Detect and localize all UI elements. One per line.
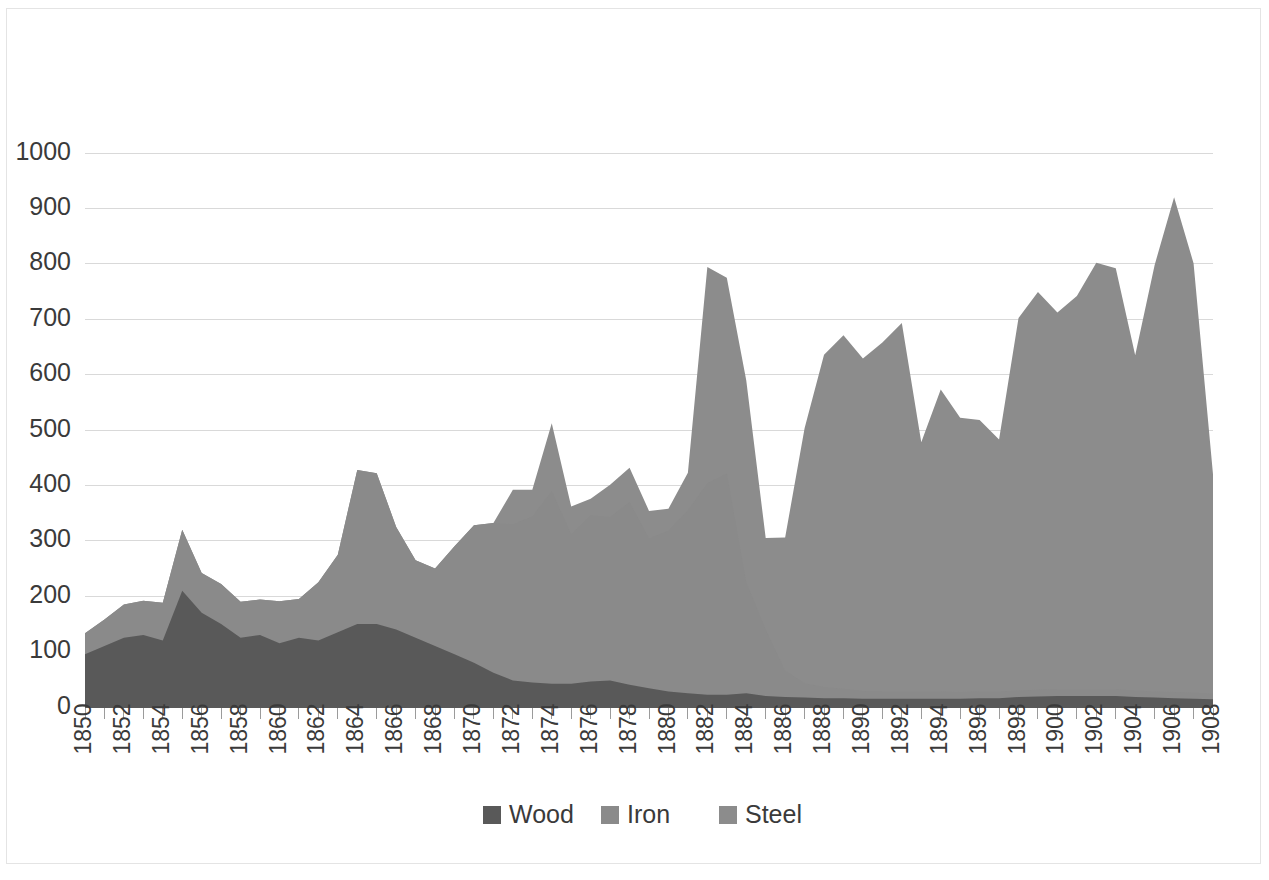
x-tick-label: 1884 [731,703,757,754]
x-tick-label: 1862 [303,703,329,754]
x-tick-label: 1896 [965,703,991,754]
x-tick-label: 1898 [1004,703,1030,754]
legend-label-wood[interactable]: Wood [509,800,574,828]
x-tick-label: 1906 [1159,703,1185,754]
x-tick-label: 1890 [848,703,874,754]
y-tick-label: 200 [29,580,71,608]
plot-area: 01002003004005006007008009001000 1850185… [0,0,1269,880]
y-tick-label: 700 [29,303,71,331]
y-tick-label: 300 [29,524,71,552]
x-tick-label: 1868 [420,703,446,754]
x-tick-label: 1904 [1120,703,1146,754]
x-tick-label: 1866 [381,703,407,754]
y-tick-label: 0 [57,691,71,719]
series-areas-group [85,197,1213,707]
x-tick-label: 1864 [342,703,368,754]
x-tick-label: 1850 [70,703,96,754]
x-tick-label: 1908 [1198,703,1224,754]
x-tick-label: 1900 [1042,703,1068,754]
x-tick-label: 1902 [1081,703,1107,754]
x-tick-label: 1894 [926,703,952,754]
x-tick-label: 1874 [537,703,563,754]
legend-swatch-iron[interactable] [601,806,619,824]
y-tick-label: 100 [29,635,71,663]
x-tick-label: 1876 [576,703,602,754]
x-tick-label: 1858 [226,703,252,754]
y-tick-label: 1000 [15,137,71,165]
y-tick-label: 400 [29,469,71,497]
x-tick-label: 1872 [498,703,524,754]
legend-swatch-wood[interactable] [483,806,501,824]
legend-group: WoodIronSteel [483,800,802,828]
x-tick-label: 1878 [615,703,641,754]
x-tick-label: 1856 [187,703,213,754]
x-tick-label: 1882 [692,703,718,754]
x-tick-label: 1860 [265,703,291,754]
y-axis-labels-group: 01002003004005006007008009001000 [15,137,71,719]
y-tick-label: 500 [29,414,71,442]
y-tick-label: 900 [29,192,71,220]
x-tick-label: 1852 [109,703,135,754]
y-tick-label: 600 [29,358,71,386]
legend-swatch-steel[interactable] [719,806,737,824]
y-tick-label: 800 [29,247,71,275]
stacked-area-chart-svg: 01002003004005006007008009001000 1850185… [0,0,1269,880]
x-tick-label: 1880 [654,703,680,754]
legend-label-iron[interactable]: Iron [627,800,670,828]
x-tick-label: 1888 [809,703,835,754]
x-tick-label: 1892 [887,703,913,754]
x-tick-label: 1886 [770,703,796,754]
legend-label-steel[interactable]: Steel [745,800,802,828]
x-tick-label: 1854 [148,703,174,754]
chart-figure: 01002003004005006007008009001000 1850185… [0,0,1269,880]
x-axis-labels-group: 1850185218541856185818601862186418661868… [70,703,1224,754]
x-tick-label: 1870 [459,703,485,754]
